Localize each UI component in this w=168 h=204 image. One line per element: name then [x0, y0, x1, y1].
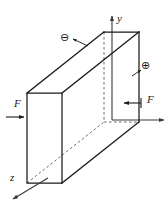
left-force-label: F [13, 97, 21, 109]
figure-container: y z F F [0, 0, 168, 204]
circled-plus-icon: ⊕ [141, 59, 150, 72]
left-force-group: F [6, 97, 24, 117]
axis-z-label: z [9, 171, 15, 183]
negative-charge-group: ⊖ [60, 31, 88, 46]
negative-charge-leader [73, 39, 88, 46]
circled-minus-icon: ⊖ [60, 31, 69, 44]
slab-face-fills [27, 32, 139, 183]
right-force-label: F [146, 93, 154, 105]
axis-y-label: y [116, 12, 122, 24]
slab-diagram: y z F F [0, 0, 168, 204]
